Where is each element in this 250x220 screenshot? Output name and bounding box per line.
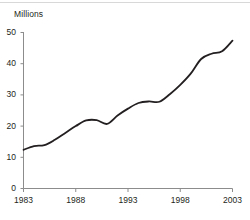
y-axis-tick-label: 10 <box>0 152 16 162</box>
data-line-1 <box>24 41 233 150</box>
x-axis-tick-label: 1998 <box>163 195 197 205</box>
y-axis-tick-label: 40 <box>0 58 16 68</box>
axes-group <box>21 32 233 192</box>
x-axis-tick-label: 2003 <box>216 195 250 205</box>
x-axis-tick-label: 1993 <box>111 195 145 205</box>
data-series-group <box>24 41 233 150</box>
line-plot-svg <box>0 0 250 220</box>
x-axis-tick-label: 1983 <box>7 195 41 205</box>
y-axis-tick-label: 20 <box>0 121 16 131</box>
y-axis-tick-label: 50 <box>0 27 16 37</box>
y-axis-tick-label: 30 <box>0 89 16 99</box>
chart-container: Millions 01020304050 1983198819931998200… <box>0 0 250 220</box>
y-axis-tick-label: 0 <box>0 183 16 193</box>
x-axis-tick-label: 1988 <box>59 195 93 205</box>
